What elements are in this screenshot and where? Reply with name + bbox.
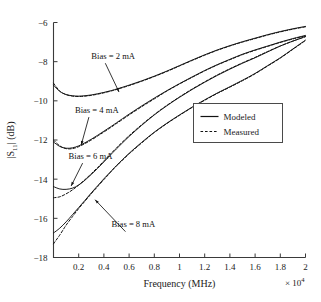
s11-frequency-line-chart: −6−8−10−12−14−16−180.20.40.60.811.21.41.… [0,0,321,302]
x-tick-label: 1 [177,262,182,272]
legend-label-measured: Measured [224,127,260,137]
y-tick-label: −10 [33,96,48,106]
chart-figure: −6−8−10−12−14−16−180.20.40.60.811.21.41.… [0,0,321,302]
x-tick-label: 1.6 [249,262,261,272]
curve-measured [54,27,306,97]
chart-legend: ModeledMeasured [194,104,283,143]
bias-annotation-arrow [105,63,119,92]
bias-annotation-arrowhead [71,182,74,186]
bias-annotation-arrow [95,200,125,232]
curve-modeled [54,26,306,96]
y-tick-label: −16 [33,214,48,224]
x-tick-label: 0.2 [73,262,84,272]
y-tick-label: −12 [33,135,47,145]
x-tick-label: 1.4 [224,262,236,272]
bias-annotation-label: Bias = 6 mA [69,151,114,161]
y-tick-label: −6 [38,18,48,28]
y-tick-label: −14 [33,175,48,185]
x-tick-label: 1.8 [275,262,287,272]
axes: −6−8−10−12−14−16−180.20.40.60.811.21.41.… [5,18,308,290]
x-axis-multiplier: × 104 [285,276,305,287]
y-tick-label: −8 [38,57,48,67]
y-axis-label: |S11| (dB) [5,122,18,159]
x-tick-label: 1.2 [199,262,210,272]
legend-label-modeled: Modeled [224,112,256,122]
x-axis-label: Frequency (MHz) [144,278,216,290]
x-tick-label: 2 [303,262,308,272]
y-tick-label: −18 [33,253,48,263]
x-tick-label: 0.4 [98,262,110,272]
x-tick-label: 0.6 [123,262,135,272]
bias-annotation-label: Bias = 4 mA [75,105,120,115]
bias-annotation-label: Bias = 2 mA [91,51,136,61]
x-tick-label: 0.8 [149,262,161,272]
